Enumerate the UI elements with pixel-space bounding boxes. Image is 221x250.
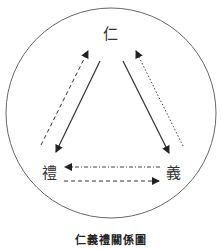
arrow-li-to-ren (41, 51, 88, 145)
diagram-caption: 仁義禮關係圖 (0, 231, 221, 247)
arrow-ren-to-yi (123, 61, 169, 153)
node-ren: 仁 (101, 26, 119, 42)
node-li: 禮 (40, 165, 58, 181)
arrow-ren-to-li (56, 61, 100, 152)
arrow-yi-to-ren (136, 51, 183, 146)
node-yi: 義 (164, 165, 182, 181)
